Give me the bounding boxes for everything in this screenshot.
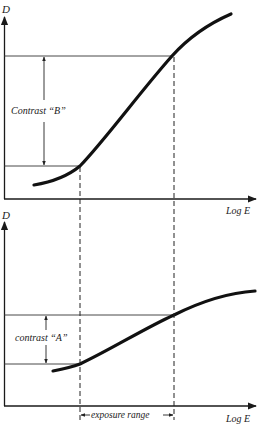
- top-x-axis-label: Log E: [225, 205, 250, 216]
- bottom-x-axis-label: Log E: [225, 413, 250, 424]
- bottom-chart: D Log E contrast “A”: [1, 209, 256, 424]
- top-chart: D Log E Contrast “B”: [1, 3, 256, 216]
- top-y-axis-label: D: [1, 3, 10, 15]
- top-characteristic-curve: [34, 14, 231, 185]
- exposure-range-label: exposure range: [91, 410, 149, 420]
- bottom-y-axis-label: D: [1, 209, 10, 221]
- bottom-characteristic-curve: [53, 291, 255, 371]
- contrast-a-label: contrast “A”: [15, 332, 68, 343]
- characteristic-curves-figure: D Log E Contrast “B” D Log E contrast “A…: [0, 0, 260, 428]
- contrast-b-label: Contrast “B”: [11, 105, 66, 116]
